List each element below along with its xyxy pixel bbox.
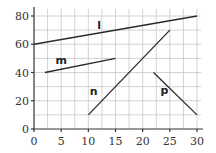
x-tick-label: 20: [136, 135, 150, 148]
line-label-l: l: [97, 19, 101, 32]
x-tick-label: 10: [81, 135, 95, 148]
y-tick-label: 40: [15, 67, 29, 80]
x-tick-label: 5: [58, 135, 65, 148]
y-tick-label: 0: [22, 123, 29, 136]
line-chart: 051015202530020406080 lmnp: [0, 0, 216, 153]
y-tick-label: 80: [15, 10, 29, 23]
grid: [34, 9, 201, 129]
y-tick-label: 60: [15, 38, 29, 51]
x-tick-label: 25: [163, 135, 177, 148]
x-tick-label: 15: [109, 135, 123, 148]
y-tick-label: 20: [15, 95, 29, 108]
x-tick-label: 30: [190, 135, 204, 148]
line-label-m: m: [55, 54, 66, 67]
line-label-p: p: [160, 84, 168, 97]
x-tick-label: 0: [31, 135, 38, 148]
line-label-n: n: [90, 85, 98, 98]
